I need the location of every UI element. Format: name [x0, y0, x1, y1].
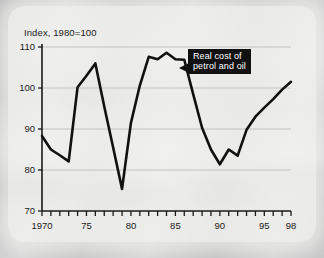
x-tick-labels: 1970758085909598	[31, 220, 296, 231]
svg-text:80: 80	[126, 220, 137, 231]
svg-text:85: 85	[170, 220, 181, 231]
y-tick-labels: 708090100110	[19, 41, 35, 216]
svg-text:90: 90	[24, 123, 35, 134]
callout-line-2: petrol and oil	[193, 61, 246, 71]
svg-text:110: 110	[20, 41, 35, 52]
data-series	[42, 53, 291, 189]
chart-figure: Index, 1980=100 708090100110 19707580859…	[0, 0, 324, 258]
axis-ticks	[38, 47, 291, 216]
svg-text:70: 70	[24, 205, 35, 216]
callout-line-1: Real cost of	[193, 51, 246, 61]
line-chart: 708090100110 1970758085909598	[0, 0, 324, 258]
svg-text:1970: 1970	[31, 220, 52, 231]
svg-text:75: 75	[81, 220, 92, 231]
svg-text:98: 98	[286, 220, 297, 231]
svg-text:90: 90	[215, 220, 226, 231]
gridlines	[42, 47, 291, 170]
svg-text:80: 80	[24, 164, 35, 175]
series-callout-label: Real cost of petrol and oil	[188, 49, 251, 74]
svg-text:95: 95	[259, 220, 270, 231]
svg-text:100: 100	[19, 82, 35, 93]
